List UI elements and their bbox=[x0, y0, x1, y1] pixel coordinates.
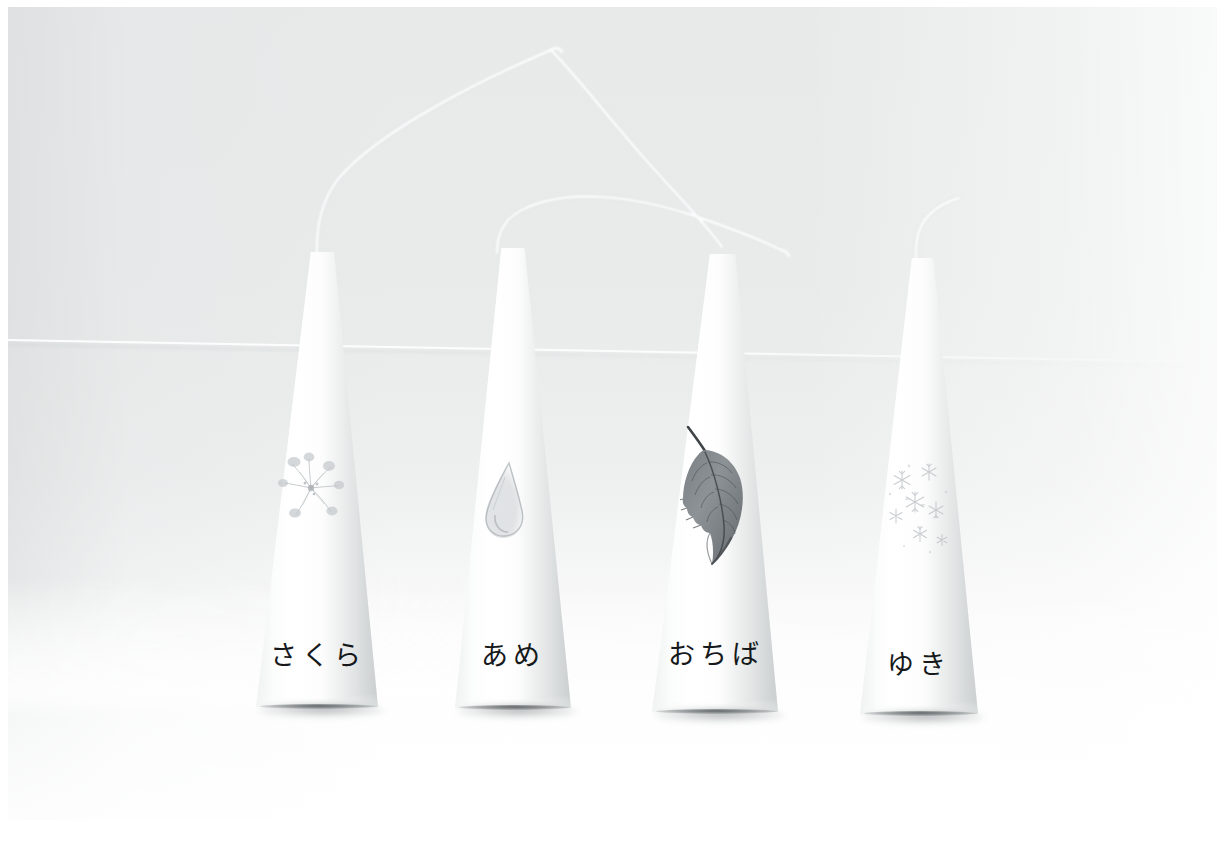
cone-label-ochiba: おちば bbox=[658, 633, 774, 672]
photo-frame: さくら bbox=[0, 0, 1225, 842]
contact-shadow-ochiba bbox=[654, 709, 784, 722]
contact-shadow-sakura bbox=[258, 704, 384, 717]
cone-yuki[interactable]: ゆき bbox=[860, 258, 978, 714]
photograph: さくら bbox=[8, 7, 1217, 820]
floor-glow bbox=[8, 580, 1217, 820]
cone-ame[interactable]: あめ bbox=[455, 248, 571, 708]
contact-shadow-yuki bbox=[862, 711, 984, 724]
snowflakes-icon bbox=[884, 454, 956, 554]
cone-label-ame: あめ bbox=[461, 634, 565, 673]
cone-label-yuki: ゆき bbox=[864, 643, 974, 682]
contact-shadow-ame bbox=[457, 705, 577, 718]
fallen-leaf-icon bbox=[680, 421, 756, 585]
cone-ochiba[interactable]: おちば bbox=[652, 254, 778, 712]
cherry-blossom-icon bbox=[274, 442, 348, 534]
cone-label-sakura: さくら bbox=[266, 634, 370, 673]
raindrop-icon bbox=[475, 453, 537, 545]
cone-sakura[interactable]: さくら bbox=[256, 252, 378, 707]
